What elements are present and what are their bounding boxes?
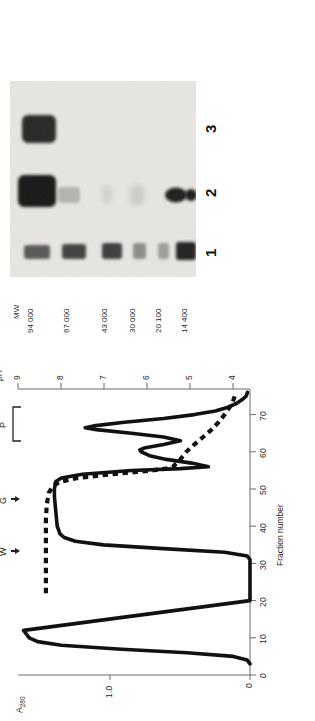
y-tick-label-right-7: 7	[98, 375, 108, 380]
x-tick-label-70: 70	[258, 411, 268, 421]
x-tick-label-0: 0	[258, 673, 268, 678]
mw-marker-43000: 43 000	[100, 309, 109, 333]
mw-marker-20100: 20 100	[154, 309, 163, 333]
y-tick-label-left-1: 1.0	[104, 686, 114, 698]
mw-marker-14400: 14 400	[180, 309, 189, 333]
arrow-down-icon-w	[15, 549, 20, 555]
gel-lane-label-1: 1	[202, 249, 219, 257]
y-tick-label-right-5: 5	[184, 375, 194, 380]
panel-gel: MW 94 000 67 000 43 000 30 000 20 100 14…	[0, 0, 315, 363]
y-axis-right-ticks	[18, 383, 233, 389]
mw-marker-67000: 67 000	[62, 309, 71, 333]
bracket-icon-p	[11, 402, 25, 442]
y-tick-label-right-9: 9	[12, 375, 22, 380]
y-axis-right-title: pH	[0, 370, 4, 381]
x-tick-label-20: 20	[258, 597, 268, 607]
y-tick-label-right-8: 8	[55, 375, 65, 380]
marker-label-g: G	[0, 497, 8, 504]
mw-header-label: MW	[12, 305, 21, 319]
figure-page: 0 1.0 A280 0 10 20 30 40 50 60 70 Fracti…	[0, 0, 315, 721]
y-tick-label-right-4: 4	[227, 375, 237, 380]
x-axis-ticks	[250, 415, 256, 675]
x-tick-label-30: 30	[258, 560, 268, 570]
y-tick-label-left-0: 0	[244, 683, 254, 688]
y-axis-left-title-sub: 280	[19, 696, 26, 707]
x-tick-label-40: 40	[258, 523, 268, 533]
y-tick-label-right-6: 6	[141, 375, 151, 380]
rotated-figure-frame: 0 1.0 A280 0 10 20 30 40 50 60 70 Fracti…	[0, 0, 315, 721]
gel-lane-label-3: 3	[202, 125, 219, 133]
absorbance-trace	[24, 392, 250, 663]
x-axis-title: Fraction number	[275, 504, 285, 566]
y-axis-left-title: A280	[14, 696, 26, 713]
gel-bands-svg	[10, 81, 196, 277]
mw-marker-94000: 94 000	[26, 309, 35, 333]
x-tick-label-50: 50	[258, 485, 268, 495]
ph-trace	[46, 396, 235, 593]
mw-marker-30000: 30 000	[128, 309, 137, 333]
y-axis-left-title-main: A	[14, 707, 24, 713]
x-tick-label-10: 10	[258, 634, 268, 644]
marker-label-p: P	[0, 422, 8, 428]
panel-elution-profile: 0 1.0 A280 0 10 20 30 40 50 60 70 Fracti…	[0, 363, 315, 721]
x-tick-label-60: 60	[258, 448, 268, 458]
gel-image	[10, 81, 196, 277]
arrow-down-icon-g	[15, 497, 20, 503]
gel-lane-label-2: 2	[202, 189, 219, 197]
marker-label-w: W	[0, 548, 8, 557]
